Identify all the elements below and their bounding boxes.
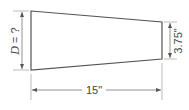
bottom-dim-arrow-left-icon <box>32 88 37 92</box>
left-dimension-variable: D <box>8 46 22 56</box>
tapered-bar-shape <box>31 11 162 70</box>
bottom-dim-arrow-right-icon <box>156 88 161 92</box>
left-dim-arrow-up-icon <box>20 12 24 17</box>
left-dimension-value: = ? <box>9 27 21 46</box>
left-dimension-label: D = ? <box>8 27 22 55</box>
right-dimension-label-group: 3.75" <box>172 28 184 53</box>
tapered-bar-diagram: D = ? 3.75" 15" <box>0 0 189 110</box>
right-dimension-label: 3.75" <box>172 28 184 53</box>
bottom-dimension-label: 15" <box>86 84 102 96</box>
svg-text:D = ?: D = ? <box>8 27 22 55</box>
left-dim-arrow-down-icon <box>20 64 24 69</box>
right-dim-arrow-up-icon <box>168 23 172 28</box>
